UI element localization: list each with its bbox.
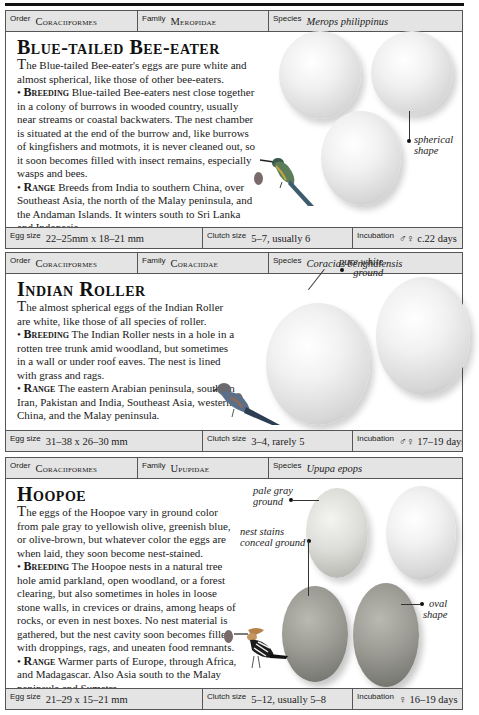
order-label: Order — [10, 256, 30, 265]
egg-size-value: 31–38 x 26–30 mm — [46, 436, 128, 447]
entry-blue-tailed-bee-eater: Order Coraciiformes Family Meropidae Spe… — [5, 10, 463, 249]
annotation-leader — [293, 500, 319, 501]
egg-size-label: Egg size — [10, 231, 41, 240]
order-cell: Order Coraciiformes — [6, 11, 137, 31]
incubation-value: ♂♀ c.22 days — [399, 233, 457, 244]
incubation-cell: Incubation ♂♀ 17–19 days — [352, 431, 462, 451]
classification-header: Order Coraciiformes Family Coraciidae Sp… — [6, 253, 462, 274]
species-value: Merops philippinus — [306, 16, 388, 27]
species-label: Species — [273, 461, 301, 470]
annotation-line: shape — [414, 145, 439, 156]
incubation-label: Incubation — [357, 434, 394, 443]
annotation-leader — [308, 541, 309, 596]
clutch-size-cell: Clutch size 5–7, usually 6 — [202, 228, 352, 248]
clutch-size-label: Clutch size — [207, 692, 246, 701]
family-value: Coraciidae — [171, 258, 219, 269]
annotation-line: nest stains — [240, 526, 284, 537]
clutch-size-cell: Clutch size 3–4, rarely 5 — [202, 431, 352, 451]
incubation-label: Incubation — [357, 231, 394, 240]
annotation-dot — [407, 139, 411, 143]
clutch-size-value: 3–4, rarely 5 — [251, 436, 304, 447]
egg-stats-footer: Egg size 31–38 x 26–30 mm Clutch size 3–… — [6, 430, 462, 451]
breeding-label: Breeding — [24, 559, 69, 573]
annotation-leader — [409, 111, 410, 141]
entry-title: Hoopoe — [17, 483, 86, 506]
egg-image — [353, 583, 419, 687]
annotation-leader — [401, 604, 421, 605]
range-label: Range — [24, 654, 56, 668]
species-label: Species — [273, 256, 301, 265]
annotation-line: spherical — [414, 134, 453, 145]
annotation-pure-white-ground: pure white ground — [339, 256, 383, 278]
annotation-spherical-shape: spherical shape — [414, 134, 453, 156]
egg-image — [371, 31, 453, 115]
species-value: Upupa epops — [306, 463, 362, 474]
intro-text: he almost spherical eggs of the Indian R… — [17, 301, 223, 327]
species-cell: Species Upupa epops — [268, 458, 462, 478]
species-cell: Species Merops philippinus — [268, 11, 462, 31]
top-rule — [5, 3, 464, 6]
egg-size-cell: Egg size 31–38 x 26–30 mm — [6, 431, 202, 451]
order-value: Coraciiformes — [35, 258, 97, 269]
breeding-label: Breeding — [24, 85, 69, 99]
classification-header: Order Coraciiformes Family Meropidae Spe… — [6, 11, 462, 32]
annotation-nest-stains: nest stains conceal ground — [240, 526, 305, 548]
egg-image — [386, 486, 456, 580]
intro-paragraph: The Blue-tailed Bee-eater's eggs are pur… — [17, 58, 257, 86]
family-cell: Family Coraciidae — [137, 253, 268, 273]
breeding-label: Breeding — [24, 327, 69, 341]
order-cell: Order Coraciiformes — [6, 253, 137, 273]
incubation-value: ♀ 16–19 days — [399, 694, 458, 705]
egg-stats-footer: Egg size 22–25mm x 18–21 mm Clutch size … — [6, 227, 462, 248]
egg-size-value: 21–29 x 15–21 mm — [46, 694, 128, 705]
incubation-cell: Incubation ♀ 16–19 days — [352, 689, 462, 709]
order-value: Coraciiformes — [35, 16, 97, 27]
egg-size-label: Egg size — [10, 692, 41, 701]
incubation-cell: Incubation ♂♀ c.22 days — [352, 228, 462, 248]
species-label: Species — [273, 14, 301, 23]
classification-header: Order Coraciiformes Family Upupidae Spec… — [6, 458, 462, 479]
egg-size-cell: Egg size 22–25mm x 18–21 mm — [6, 228, 202, 248]
family-cell: Family Upupidae — [137, 458, 268, 478]
annotation-line: conceal ground — [240, 537, 305, 548]
egg-image — [282, 586, 348, 682]
annotation-line: oval — [423, 598, 447, 609]
roller-bird-illustration — [212, 381, 282, 426]
intro-paragraph: The eggs of the Hoopoe vary in ground co… — [17, 505, 239, 560]
annotation-pale-gray-ground: pale gray ground — [253, 485, 293, 507]
annotation-line: pale gray — [253, 485, 293, 496]
clutch-size-cell: Clutch size 5–12, usually 5–8 — [202, 689, 352, 709]
annotation-oval-shape: oval shape — [423, 598, 448, 620]
range-label: Range — [24, 381, 56, 395]
breeding-text: Blue-tailed Bee-eaters nest close togeth… — [17, 86, 255, 179]
order-label: Order — [10, 14, 30, 23]
family-cell: Family Meropidae — [137, 11, 268, 31]
annotation-line: shape — [423, 609, 448, 620]
range-label: Range — [24, 180, 56, 194]
annotation-line: ground — [345, 267, 383, 278]
clutch-size-label: Clutch size — [207, 434, 246, 443]
entry-title: Indian Roller — [17, 278, 146, 301]
order-label: Order — [10, 461, 30, 470]
annotation-line: pure white — [339, 256, 383, 267]
family-value: Meropidae — [171, 16, 217, 27]
order-value: Coraciiformes — [35, 463, 97, 474]
family-value: Upupidae — [171, 463, 210, 474]
breeding-paragraph: • Breeding The Indian Roller nests in a … — [17, 328, 239, 382]
intro-text: he Blue-tailed Bee-eater's eggs are pure… — [17, 59, 247, 85]
intro-text: he eggs of the Hoopoe vary in ground col… — [17, 506, 231, 559]
family-label: Family — [142, 256, 166, 265]
breeding-text: The Hoopoe nests in a natural tree hole … — [17, 560, 236, 653]
entry-indian-roller: Order Coraciiformes Family Coraciidae Sp… — [5, 252, 463, 452]
family-label: Family — [142, 14, 166, 23]
entry-description: The eggs of the Hoopoe vary in ground co… — [17, 505, 239, 695]
clutch-size-label: Clutch size — [207, 231, 246, 240]
entry-title: Blue-tailed Bee-eater — [17, 36, 220, 59]
egg-stats-footer: Egg size 21–29 x 15–21 mm Clutch size 5–… — [6, 688, 462, 709]
egg-image — [376, 277, 470, 395]
entry-hoopoe: Order Coraciiformes Family Upupidae Spec… — [5, 457, 463, 710]
intro-paragraph: The almost spherical eggs of the Indian … — [17, 300, 239, 328]
entry-description: The almost spherical eggs of the Indian … — [17, 300, 239, 423]
order-cell: Order Coraciiformes — [6, 458, 137, 478]
entry-description: The Blue-tailed Bee-eater's eggs are pur… — [17, 58, 257, 235]
